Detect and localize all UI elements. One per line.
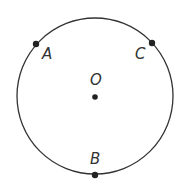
center-point-o bbox=[92, 94, 98, 100]
point-a bbox=[33, 41, 39, 47]
label-b: B bbox=[90, 152, 100, 167]
label-c: C bbox=[135, 47, 145, 62]
point-c bbox=[149, 40, 155, 46]
circle-diagram: A C O B bbox=[0, 0, 184, 188]
label-a: A bbox=[42, 47, 52, 62]
label-o: O bbox=[90, 73, 102, 88]
point-b bbox=[92, 172, 98, 178]
